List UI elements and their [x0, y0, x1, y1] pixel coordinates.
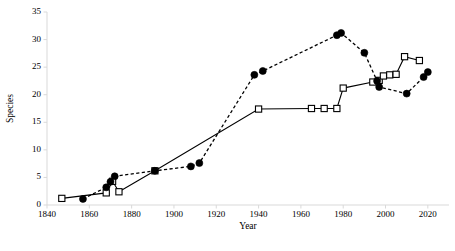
y-tick-label: 20	[32, 89, 42, 99]
data-point-circle	[424, 69, 431, 76]
data-point-square	[116, 189, 122, 195]
x-tick-label: 1840	[38, 209, 57, 219]
y-tick-label: 5	[37, 171, 42, 181]
data-point-circle	[251, 71, 258, 78]
data-point-square	[393, 71, 399, 77]
data-point-circle	[259, 68, 266, 75]
species-year-chart: 0510152025303518401860188019001920194019…	[0, 0, 455, 251]
data-point-square	[387, 72, 393, 78]
y-tick-label: 30	[32, 34, 42, 44]
y-tick-label: 0	[37, 199, 42, 209]
series-line-filled-circle-series	[83, 33, 428, 199]
y-tick-label: 35	[32, 6, 42, 16]
x-axis-title: Year	[239, 221, 257, 231]
x-tick-label: 1920	[207, 209, 226, 219]
x-tick-label: 1940	[250, 209, 269, 219]
data-point-circle	[376, 83, 383, 90]
x-tick-label: 1860	[80, 209, 99, 219]
data-point-circle	[196, 160, 203, 167]
x-tick-label: 1960	[292, 209, 311, 219]
y-tick-label: 10	[32, 144, 42, 154]
data-point-circle	[151, 167, 158, 174]
y-tick-label: 15	[32, 116, 42, 126]
x-tick-label: 1900	[165, 209, 184, 219]
data-point-circle	[338, 29, 345, 36]
x-tick-label: 1980	[334, 209, 353, 219]
data-point-square	[401, 54, 407, 60]
data-point-circle	[361, 49, 368, 56]
data-point-square	[321, 105, 327, 111]
data-point-circle	[79, 195, 86, 202]
data-point-square	[340, 85, 346, 91]
data-point-square	[334, 105, 340, 111]
data-point-circle	[111, 173, 118, 180]
chart-canvas: 0510152025303518401860188019001920194019…	[0, 0, 455, 251]
data-point-square	[255, 106, 261, 112]
data-point-square	[416, 57, 422, 63]
x-tick-label: 2000	[377, 209, 396, 219]
x-tick-label: 2020	[419, 209, 438, 219]
x-tick-label: 1880	[123, 209, 142, 219]
y-tick-label: 25	[32, 61, 42, 71]
data-point-square	[308, 105, 314, 111]
y-axis-title: Species	[5, 94, 15, 123]
data-point-circle	[187, 163, 194, 170]
data-point-square	[380, 73, 386, 79]
data-point-circle	[403, 90, 410, 97]
data-point-square	[59, 195, 65, 201]
